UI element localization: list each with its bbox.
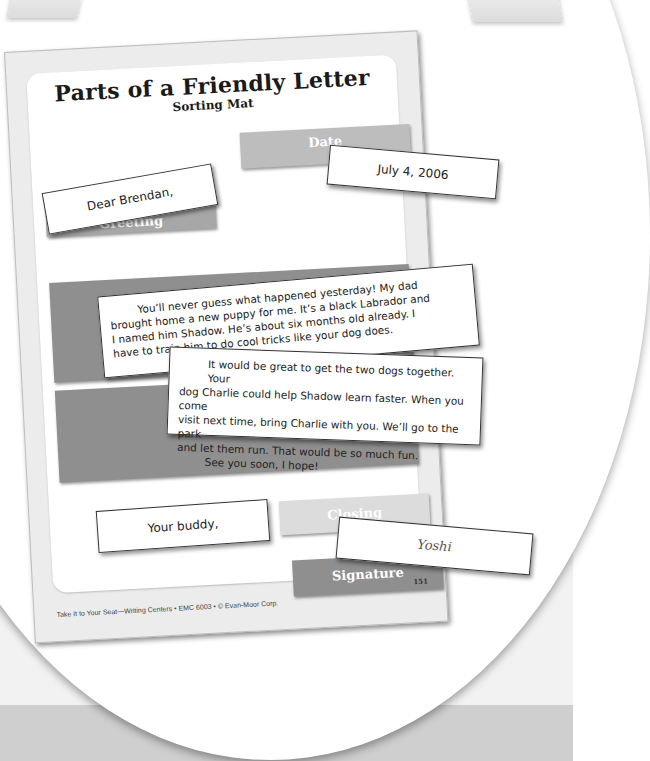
ribbon-right [467, 0, 563, 22]
page-footer: Take It to Your Seat—Writing Centers • E… [56, 599, 278, 618]
page-number: 151 [413, 577, 428, 587]
signature-slot-label: Signature [332, 565, 405, 584]
ribbon-left [7, 0, 83, 18]
card-body-paragraph-2[interactable]: It would be great to get the two dogs to… [167, 347, 484, 446]
card-body-2-text: It would be great to get the two dogs to… [166, 348, 482, 487]
